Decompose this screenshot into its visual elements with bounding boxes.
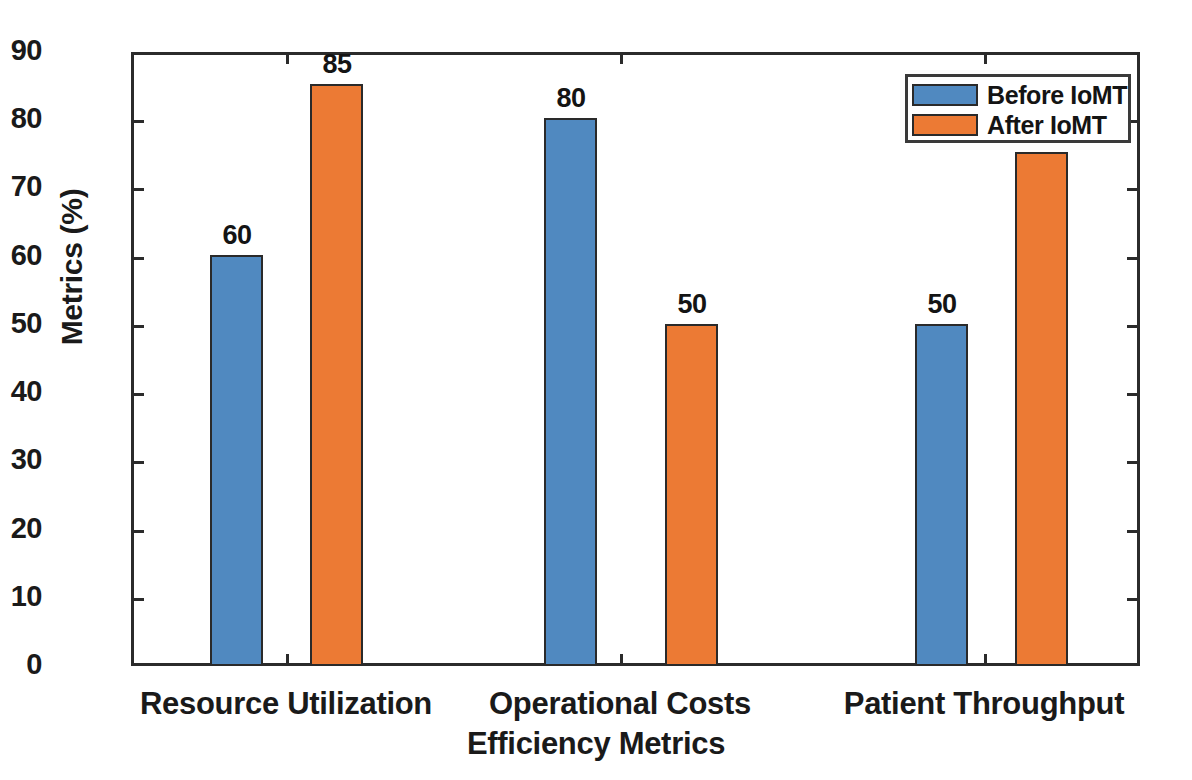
ytick-mark-right-10 [1127, 598, 1140, 601]
bar-value-label-80: 80 [531, 83, 611, 114]
bar-after-iomt-patient-throughput[interactable] [1015, 152, 1068, 666]
ytick-label-10: 10 [0, 580, 42, 613]
xtick-mark-group-1 [286, 654, 289, 666]
x-axis-title: Efficiency Metrics [0, 726, 1192, 762]
legend: Before IoMT After IoMT [905, 74, 1131, 143]
bar-value-label-50-costs: 50 [652, 289, 732, 320]
legend-label-after-iomt: After IoMT [987, 111, 1107, 140]
ytick-label-50: 50 [0, 307, 42, 340]
ytick-label-60: 60 [0, 239, 42, 272]
ytick-mark-20 [131, 530, 144, 533]
ytick-label-0: 0 [0, 648, 42, 681]
ytick-mark-50 [131, 325, 144, 328]
xtick-mark-group-2 [620, 654, 623, 666]
bar-before-iomt-resource-utilization[interactable] [210, 255, 263, 666]
bar-value-label-50-throughput: 50 [902, 289, 982, 320]
xtick-mark-group-3 [984, 654, 987, 666]
ytick-mark-right-50 [1127, 325, 1140, 328]
ytick-mark-right-40 [1127, 393, 1140, 396]
ytick-label-20: 20 [0, 512, 42, 545]
legend-item-after-iomt[interactable]: After IoMT [912, 110, 1124, 140]
bar-value-label-60: 60 [197, 220, 277, 251]
ytick-mark-60 [131, 257, 144, 260]
ytick-mark-right-70 [1127, 188, 1140, 191]
ytick-mark-70 [131, 188, 144, 191]
ytick-mark-10 [131, 598, 144, 601]
xtick-mark-top-group-3 [984, 52, 987, 64]
legend-swatch-after-iomt [912, 114, 978, 136]
bar-after-iomt-operational-costs[interactable] [665, 324, 718, 666]
bar-chart-figure: 90 80 70 60 50 40 30 20 10 0 Metrics (%) [0, 0, 1192, 780]
ytick-mark-right-60 [1127, 257, 1140, 260]
xtick-label-operational-costs: Operational Costs [420, 686, 820, 722]
ytick-label-30: 30 [0, 443, 42, 476]
bar-after-iomt-resource-utilization[interactable] [310, 84, 363, 666]
legend-label-before-iomt: Before IoMT [987, 81, 1127, 110]
plot-area: 60 85 80 50 50 75 Before IoMT After IoMT [131, 52, 1140, 666]
ytick-label-80: 80 [0, 102, 42, 135]
bar-before-iomt-patient-throughput[interactable] [915, 324, 968, 666]
legend-item-before-iomt[interactable]: Before IoMT [912, 80, 1124, 110]
bar-before-iomt-operational-costs[interactable] [544, 118, 597, 666]
y-axis-title: Metrics (%) [55, 189, 89, 346]
xtick-mark-top-group-1 [286, 52, 289, 64]
ytick-mark-right-30 [1127, 461, 1140, 464]
xtick-label-patient-throughput: Patient Throughput [784, 686, 1184, 722]
ytick-label-40: 40 [0, 375, 42, 408]
bar-value-label-85: 85 [297, 49, 377, 80]
ytick-label-90: 90 [0, 34, 42, 67]
xtick-mark-top-group-2 [620, 52, 623, 64]
ytick-label-70: 70 [0, 170, 42, 203]
ytick-mark-30 [131, 461, 144, 464]
legend-swatch-before-iomt [912, 84, 978, 106]
ytick-mark-80 [131, 120, 144, 123]
ytick-mark-right-20 [1127, 530, 1140, 533]
ytick-mark-40 [131, 393, 144, 396]
